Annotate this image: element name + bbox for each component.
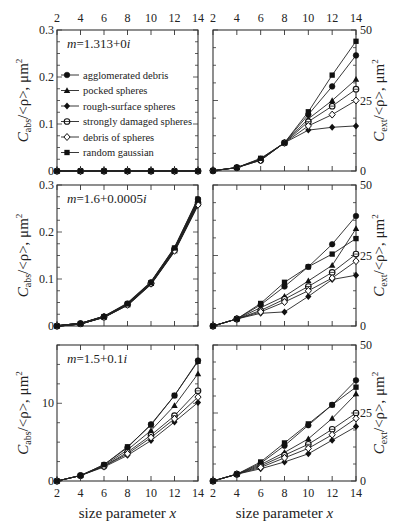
legend: agglomerated debrispocked spheresrough-s…: [61, 70, 192, 159]
top-x-tick-label: 6: [101, 11, 107, 25]
series-debris-of-spheres: [54, 394, 201, 485]
bottom-x-tick-label: 8: [125, 486, 131, 500]
marker-diamond-open-icon: [64, 134, 70, 141]
marker-square-icon: [148, 168, 153, 173]
marker-circle-filled-icon: [329, 84, 335, 90]
series-strongly-damaged-spheres: [54, 200, 201, 329]
y-axis-label: Cabs/<ρ>, μm2: [14, 214, 33, 298]
panel-ext-row2: 02550Cext/<ρ>, μm2: [210, 178, 389, 333]
refractive-index-annotation: m=1.6+0.0005i: [67, 191, 147, 206]
bottom-x-tick-label: 2: [210, 486, 216, 500]
bottom-x-tick-label: 4: [78, 486, 84, 500]
marker-triangle-icon: [329, 262, 335, 268]
top-x-tick-label: 8: [282, 11, 288, 25]
marker-square-icon: [258, 459, 263, 464]
top-x-tick-label: 12: [326, 11, 338, 25]
series-random-gaussian: [210, 39, 358, 174]
top-x-tick-label: 8: [125, 11, 131, 25]
series-strongly-damaged-spheres: [210, 86, 359, 173]
marker-square-icon: [258, 301, 263, 306]
top-x-tick-label: 2: [54, 11, 60, 25]
series-debris-of-spheres: [210, 97, 359, 174]
marker-square-icon: [172, 168, 177, 173]
y-axis-label: Cext/<ρ>, μm2: [370, 214, 389, 297]
marker-square-icon: [78, 168, 83, 173]
marker-square-icon: [234, 316, 239, 321]
marker-square-icon: [353, 236, 358, 241]
marker-diamond-filled-icon: [353, 122, 359, 129]
series-agglomerated-debris: [210, 378, 359, 484]
y-tick-label: 0: [48, 164, 54, 178]
marker-square-icon: [282, 280, 287, 285]
marker-square-icon: [330, 72, 335, 77]
marker-triangle-icon: [195, 370, 201, 376]
top-x-tick-label: 10: [302, 11, 314, 25]
y-axis-label: Cabs/<ρ>, μm2: [14, 59, 33, 143]
bottom-x-tick-label: 12: [169, 486, 181, 500]
bottom-x-tick-label: 14: [192, 486, 204, 500]
marker-square-icon: [282, 140, 287, 145]
marker-circle-filled-icon: [353, 53, 359, 59]
top-x-tick-label: 14: [350, 11, 362, 25]
refractive-index-annotation: m=1.5+0.1i: [67, 351, 128, 366]
marker-diamond-filled-icon: [64, 103, 70, 110]
marker-diamond-open-icon: [329, 111, 335, 118]
legend-item-label: pocked spheres: [83, 85, 147, 96]
marker-square-icon: [101, 462, 106, 467]
series-random-gaussian: [210, 385, 358, 484]
marker-diamond-open-icon: [353, 415, 359, 422]
y-tick-label: 0.2: [39, 70, 54, 84]
y-tick-label: 0: [360, 319, 366, 333]
marker-square-icon: [195, 359, 200, 364]
marker-diamond-open-icon: [353, 97, 359, 104]
top-x-tick-label: 6: [258, 11, 264, 25]
marker-diamond-filled-icon: [281, 308, 287, 315]
marker-triangle-icon: [353, 391, 359, 397]
marker-square-icon: [172, 393, 177, 398]
marker-square-icon: [54, 478, 59, 483]
marker-square-icon: [234, 472, 239, 477]
marker-square-icon: [54, 168, 59, 173]
series-rough-surface-spheres: [54, 399, 201, 484]
y-tick-label: 0: [360, 164, 366, 178]
marker-circle-filled-icon: [329, 241, 335, 247]
marker-square-icon: [330, 251, 335, 256]
marker-square-icon: [306, 109, 311, 114]
bottom-x-tick-label: 8: [282, 486, 288, 500]
series-pocked-spheres: [54, 370, 201, 483]
top-x-tick-label: 4: [78, 11, 84, 25]
marker-diamond-filled-icon: [353, 423, 359, 430]
marker-square-icon: [148, 422, 153, 427]
marker-square-icon: [125, 301, 130, 306]
series-strongly-damaged-spheres: [210, 251, 359, 329]
marker-square-icon: [172, 245, 177, 250]
top-x-tick-label: 10: [145, 11, 157, 25]
marker-diamond-open-icon: [329, 431, 335, 438]
x-axis-label: size parameter x: [79, 505, 177, 521]
top-x-tick-label: 2: [210, 11, 216, 25]
marker-square-icon: [125, 168, 130, 173]
marker-square-icon: [210, 168, 215, 173]
series-random-gaussian: [54, 168, 200, 173]
y-tick-label: 0.3: [39, 23, 54, 37]
figure-canvas: 00.10.20.3Cabs/<ρ>, μm2m=1.313+0iagglome…: [0, 0, 402, 525]
series-debris-of-spheres: [54, 201, 201, 329]
marker-square-icon: [234, 165, 239, 170]
bottom-x-tick-label: 10: [145, 486, 157, 500]
y-tick-label: 0.1: [39, 272, 54, 286]
marker-square-icon: [101, 168, 106, 173]
marker-square-icon: [78, 473, 83, 478]
marker-triangle-icon: [353, 225, 359, 231]
bottom-x-tick-label: 6: [258, 486, 264, 500]
marker-diamond-filled-icon: [329, 124, 335, 131]
series-strongly-damaged-spheres: [54, 388, 201, 484]
marker-square-icon: [258, 156, 263, 161]
marker-diamond-open-icon: [353, 258, 359, 265]
y-tick-label: 0.2: [39, 225, 54, 239]
series-agglomerated-debris: [210, 53, 359, 174]
top-x-tick-label: 4: [234, 11, 240, 25]
series-pocked-spheres: [54, 200, 201, 328]
marker-square-icon: [54, 323, 59, 328]
panel-ext-row3: 02550Cext/<ρ>, μm2: [210, 338, 389, 488]
y-tick-label: 0: [48, 319, 54, 333]
